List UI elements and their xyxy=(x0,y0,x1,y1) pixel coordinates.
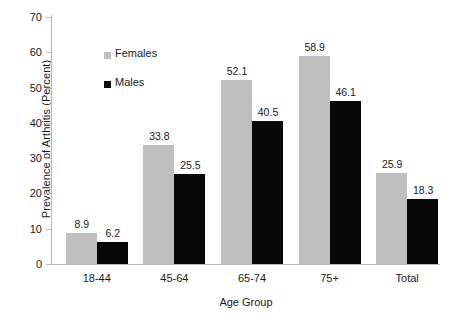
y-axis-tick-label: 0 xyxy=(0,258,42,270)
bar-males-75+ xyxy=(330,101,361,264)
bar-males-Total xyxy=(407,199,438,264)
bar-males-65-74 xyxy=(252,121,283,264)
legend-label-males: Males xyxy=(115,76,144,88)
y-axis-tick-label: 60 xyxy=(0,46,42,58)
gray-square-swatch-icon xyxy=(104,52,111,59)
bar-value-label: 18.3 xyxy=(406,184,440,196)
bar-females-65-74 xyxy=(221,80,252,264)
black-square-swatch-icon xyxy=(104,81,111,88)
y-axis-tick-label: 70 xyxy=(0,11,42,23)
bar-value-label: 46.1 xyxy=(329,86,363,98)
bar-value-label: 6.2 xyxy=(96,227,130,239)
y-axis-tick-label: 20 xyxy=(0,187,42,199)
bar-males-45-64 xyxy=(174,174,205,264)
y-axis-tick-label: 40 xyxy=(0,117,42,129)
bar-chart: Prevalence of Arthritis (Percent) Age Gr… xyxy=(0,0,457,319)
x-axis-line xyxy=(52,264,440,265)
legend-label-females: Females xyxy=(115,47,157,59)
bar-value-label: 52.1 xyxy=(220,65,254,77)
y-axis-tick-label: 10 xyxy=(0,223,42,235)
bar-females-Total xyxy=(376,173,407,264)
bar-females-18-44 xyxy=(66,233,97,264)
bar-group: 58.946.1 xyxy=(299,17,361,264)
x-axis-tick-label: 18-44 xyxy=(52,272,142,284)
bar-value-label: 25.5 xyxy=(173,159,207,171)
bar-value-label: 58.9 xyxy=(298,41,332,53)
y-axis-tick-label: 30 xyxy=(0,152,42,164)
bar-group: 25.918.3 xyxy=(376,17,438,264)
x-axis-title: Age Group xyxy=(52,296,440,308)
bar-females-45-64 xyxy=(143,145,174,264)
y-axis-tick xyxy=(46,264,52,265)
x-axis-tick-label: Total xyxy=(362,272,452,284)
bar-value-label: 25.9 xyxy=(375,158,409,170)
bar-females-75+ xyxy=(299,56,330,264)
x-axis-tick-label: 75+ xyxy=(285,272,375,284)
x-axis-tick-label: 45-64 xyxy=(129,272,219,284)
x-axis-tick-label: 65-74 xyxy=(207,272,297,284)
bar-males-18-44 xyxy=(97,242,128,264)
y-axis-tick-label: 50 xyxy=(0,82,42,94)
bar-value-label: 8.9 xyxy=(65,218,99,230)
bar-group: 52.140.5 xyxy=(221,17,283,264)
bar-value-label: 40.5 xyxy=(251,106,285,118)
bar-value-label: 33.8 xyxy=(142,130,176,142)
